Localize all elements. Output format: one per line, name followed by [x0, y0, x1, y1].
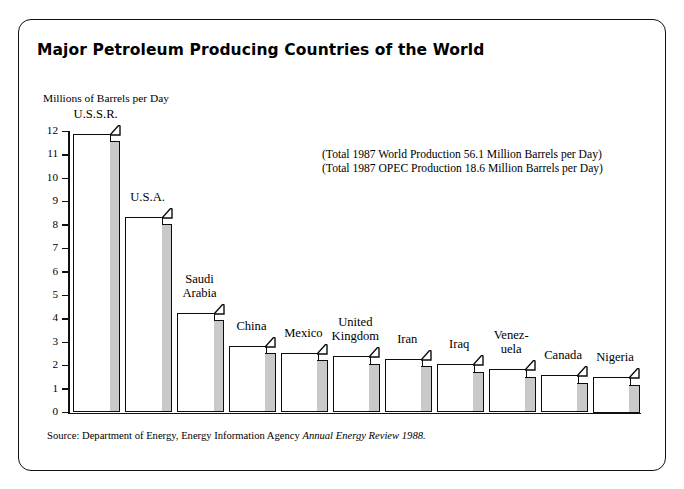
- bar-side-face: [473, 372, 484, 413]
- y-axis-tick-label: 1: [36, 382, 58, 394]
- bar-top-face: [162, 208, 173, 219]
- bar-chart-plot: 0123456789101112 U.S.S.R.U.S.A.Saudi Ara…: [0, 0, 684, 489]
- bar-top-face: [629, 368, 640, 379]
- y-axis-tick-label: 12: [36, 124, 58, 136]
- bar-side-face: [369, 364, 380, 413]
- bar-category-label: U.S.S.R.: [62, 107, 130, 121]
- y-axis-tick-label: 5: [36, 288, 58, 300]
- bar: [489, 360, 536, 412]
- y-axis-tick-label: 10: [36, 171, 58, 183]
- bar-category-label: U.S.A.: [114, 190, 182, 204]
- bar-front-face: [541, 375, 579, 412]
- bar: [541, 366, 588, 412]
- source-note-title: Annual Energy Review 1988.: [302, 430, 425, 441]
- bar-front-face: [333, 356, 371, 412]
- bar-top-face: [473, 355, 484, 366]
- y-axis-line: [68, 131, 70, 414]
- y-axis-tick-label: 6: [36, 265, 58, 277]
- bar: [229, 337, 276, 413]
- bar: [281, 344, 328, 413]
- bar-front-face: [437, 364, 475, 412]
- bar-category-label: Nigeria: [581, 350, 649, 364]
- y-axis-tick: [62, 318, 68, 319]
- bar-side-face: [421, 366, 432, 412]
- bar-front-face: [125, 217, 163, 413]
- bar-side-face: [317, 360, 328, 412]
- y-axis-tick: [62, 412, 68, 413]
- y-axis-tick-label: 11: [36, 147, 58, 159]
- bar-front-face: [385, 359, 423, 413]
- y-axis-tick-label: 0: [36, 405, 58, 417]
- y-axis-tick-label: 4: [36, 311, 58, 323]
- bar-front-face: [593, 377, 631, 412]
- bar-side-face: [110, 141, 121, 412]
- bar-top-face: [214, 304, 225, 315]
- bar: [593, 368, 640, 412]
- bar-side-face: [525, 377, 536, 413]
- y-axis-tick: [62, 178, 68, 179]
- y-axis-tick-label: 3: [36, 335, 58, 347]
- bar-front-face: [229, 346, 267, 413]
- bar-top-face: [577, 366, 588, 377]
- y-axis-tick: [62, 365, 68, 366]
- bar: [73, 125, 120, 413]
- bar-front-face: [177, 313, 215, 413]
- bar-side-face: [265, 353, 276, 412]
- y-axis-tick-label: 8: [36, 218, 58, 230]
- bar-top-face: [317, 344, 328, 355]
- y-axis-tick-label: 9: [36, 194, 58, 206]
- y-axis-tick-label: 7: [36, 241, 58, 253]
- bar: [333, 347, 380, 412]
- bar-front-face: [489, 369, 527, 412]
- y-axis-tick: [62, 295, 68, 296]
- source-note-prefix: Source: Department of Energy, Energy Inf…: [47, 430, 302, 441]
- bar: [437, 355, 484, 412]
- y-axis-tick: [62, 224, 68, 225]
- y-axis-tick: [62, 342, 68, 343]
- y-axis-tick: [62, 388, 68, 389]
- bar-side-face: [162, 224, 173, 412]
- bar-front-face: [281, 353, 319, 413]
- bar-side-face: [629, 385, 640, 413]
- bar-top-face: [369, 347, 380, 358]
- bar: [125, 208, 172, 413]
- bar-top-face: [110, 125, 121, 136]
- bar-side-face: [214, 320, 225, 412]
- y-axis-tick: [62, 154, 68, 155]
- source-note: Source: Department of Energy, Energy Inf…: [47, 430, 426, 441]
- y-axis-tick: [62, 131, 68, 132]
- bar: [385, 350, 432, 413]
- x-axis-baseline: [68, 413, 641, 415]
- bar-side-face: [577, 383, 588, 413]
- bar-category-label: Saudi Arabia: [166, 272, 234, 300]
- y-axis-tick: [62, 271, 68, 272]
- y-axis-tick-label: 2: [36, 358, 58, 370]
- y-axis-tick: [62, 248, 68, 249]
- bar-front-face: [73, 134, 111, 413]
- y-axis-tick: [62, 201, 68, 202]
